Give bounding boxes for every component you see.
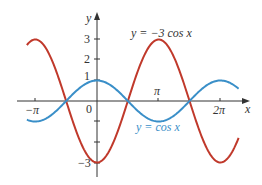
- y-axis-label: y: [85, 11, 92, 25]
- tick-label-2pi: 2π: [213, 103, 226, 117]
- tick-label-1: 1: [84, 69, 90, 83]
- tick-label-2: 2: [84, 52, 90, 66]
- cosine-chart: y x 3 2 1 −3 0 −π π 2π y = −3 cos x y = …: [0, 0, 262, 185]
- blue-curve-label: y = cos x: [135, 120, 180, 134]
- tick-label-pi: π: [154, 84, 161, 98]
- tick-label-3: 3: [84, 32, 90, 46]
- red-curve-label: y = −3 cos x: [130, 26, 193, 40]
- tick-label-neg3: −3: [78, 156, 91, 170]
- tick-label-zero: 0: [86, 102, 92, 116]
- tick-label-neg-pi: −π: [25, 103, 40, 117]
- x-axis-label: x: [244, 102, 251, 116]
- y-axis-arrow-icon: [94, 12, 100, 20]
